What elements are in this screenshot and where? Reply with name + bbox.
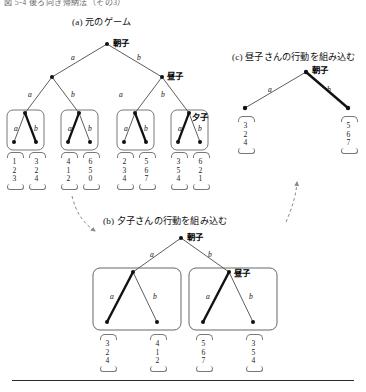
payoff-a-b-a-a: 234 — [117, 158, 132, 184]
edge-label-a-box4-a: a — [178, 124, 182, 133]
payoff-a-a-a-b: 324 — [29, 158, 44, 184]
edge-label-a-box4-b: b — [198, 124, 202, 133]
payoff-b-b-b: 354 — [246, 340, 261, 366]
edge-label-a-left-a: a — [28, 90, 32, 99]
payoff-a-a-b-b-brace-bottom — [83, 184, 100, 190]
edge-label-c-a: a — [268, 85, 272, 94]
payoff-a-b-a-a-brace-bottom — [117, 184, 134, 190]
player-label-hiruko-a: 昼子 — [167, 69, 183, 81]
payoff-a-a-b-b-value-2: 0 — [83, 175, 98, 184]
payoff-c-a-brace-bottom — [238, 148, 255, 154]
edge-label-c-b: b — [327, 85, 331, 94]
payoff-a-b-b-a-value-2: 4 — [171, 175, 186, 184]
payoff-a-a-a-b-brace-bottom — [29, 184, 46, 190]
edge-label-b-root-b: b — [208, 250, 212, 259]
payoff-a-a-b-a-value-2: 2 — [61, 175, 76, 184]
figure-header-clipped: 図 5-4 後ろ向き帰納法（その3） — [4, 0, 224, 7]
payoff-a-b-b-b: 621 — [193, 158, 208, 184]
payoff-a-b-b-a: 354 — [171, 158, 186, 184]
payoff-c-b-value-2: 7 — [341, 139, 356, 148]
payoff-b-a-a-brace-bottom — [100, 366, 117, 372]
payoff-c-b-brace-bottom — [341, 148, 358, 154]
payoff-a-b-a-b: 567 — [139, 158, 154, 184]
edge-label-a-right-b: b — [161, 90, 165, 99]
payoff-a-a-a-b-value-2: 4 — [29, 175, 44, 184]
edge-label-b-box2-a: a — [206, 292, 210, 301]
player-label-hiruko-b: 昼子 — [234, 266, 250, 278]
edge-label-a-box1-b: b — [34, 124, 38, 133]
caption-panel-c: (c) 昼子さんの行動を組み込む — [232, 49, 356, 63]
edge-label-a-root-a: a — [71, 53, 75, 62]
payoff-b-a-b: 412 — [150, 340, 165, 366]
payoff-b-b-b-value-2: 4 — [246, 357, 261, 366]
edge-label-a-box1-a: a — [14, 124, 18, 133]
payoff-b-b-b-brace-bottom — [246, 366, 263, 372]
edge-label-a-left-b: b — [71, 90, 75, 99]
player-label-asako-c: 朝子 — [312, 63, 328, 75]
payoff-a-a-a-a-brace-bottom — [7, 184, 24, 190]
payoff-b-a-a-value-2: 4 — [100, 357, 115, 366]
payoff-b-a-b-value-2: 2 — [150, 357, 165, 366]
edge-label-b-root-a: a — [150, 250, 154, 259]
payoff-b-a-a: 324 — [100, 340, 115, 366]
payoff-a-b-a-b-brace-bottom — [139, 184, 156, 190]
payoff-b-b-a-brace-bottom — [196, 366, 213, 372]
payoff-a-b-b-a-brace-bottom — [171, 184, 188, 190]
payoff-c-b: 567 — [341, 122, 356, 148]
edge-label-b-box1-a: a — [110, 292, 114, 301]
edge-label-a-box3-b: b — [144, 124, 148, 133]
payoff-c-a-value-2: 4 — [238, 139, 253, 148]
payoff-b-b-a: 567 — [196, 340, 211, 366]
edge-label-a-box3-a: a — [124, 124, 128, 133]
edge-label-a-root-b: b — [137, 53, 141, 62]
player-label-yuko-a: 夕子 — [192, 110, 208, 122]
caption-panel-b: (b) 夕子さんの行動を組み込む — [103, 213, 227, 227]
edge-label-a-right-a: a — [119, 90, 123, 99]
payoff-b-a-b-brace-bottom — [150, 366, 167, 372]
payoff-a-b-b-b-value-2: 1 — [193, 175, 208, 184]
footer-rule — [12, 380, 354, 381]
player-label-asako-a: 朝子 — [113, 36, 129, 48]
edge-label-b-box2-b: b — [249, 292, 253, 301]
payoff-a-b-a-a-value-2: 4 — [117, 175, 132, 184]
caption-panel-a: (a) 元のゲーム — [72, 14, 131, 28]
payoff-a-a-a-a: 123 — [7, 158, 22, 184]
figure-page: 図 5-4 後ろ向き帰納法（その3） — [0, 0, 366, 392]
edge-label-a-box2-b: b — [88, 124, 92, 133]
payoff-a-a-b-b: 650 — [83, 158, 98, 184]
player-label-asako-b: 朝子 — [187, 230, 203, 242]
payoff-a-a-b-a: 412 — [61, 158, 76, 184]
payoff-a-b-b-b-brace-bottom — [193, 184, 210, 190]
payoff-a-b-a-b-value-2: 7 — [139, 175, 154, 184]
payoff-c-a: 324 — [238, 122, 253, 148]
edge-label-b-box1-b: b — [153, 292, 157, 301]
edge-label-a-box2-a: a — [68, 124, 72, 133]
payoff-a-a-a-a-value-2: 3 — [7, 175, 22, 184]
payoff-b-b-a-value-2: 7 — [196, 357, 211, 366]
payoff-a-a-b-a-brace-bottom — [61, 184, 78, 190]
